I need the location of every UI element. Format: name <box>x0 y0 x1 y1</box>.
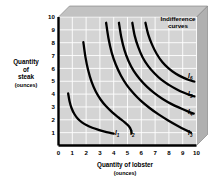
y-tick-label: 9 <box>52 26 56 33</box>
y-axis-title-line-1: Quantity <box>13 58 39 65</box>
y-axis-title-line-3: steak <box>18 73 34 80</box>
y-tick-label: 2 <box>52 116 56 123</box>
x-axis-title: Quantity of lobster (ounces) <box>55 161 195 177</box>
x-tick-label: 6 <box>140 149 144 156</box>
y-axis-title-line-2: of <box>23 66 29 73</box>
y-tick-label: 8 <box>52 39 56 46</box>
curve-label-subscript: 3 <box>190 133 193 138</box>
indifference-curves-annotation: Indifference curves <box>146 15 210 30</box>
x-tick-label: 2 <box>84 149 88 156</box>
x-tick-label: 10 <box>193 149 200 156</box>
curve-label-subscript: 4 <box>189 112 193 117</box>
y-tick-label: 1 <box>52 129 56 136</box>
x-tick-label: 1 <box>71 149 75 156</box>
y-tick-label: 10 <box>48 13 55 20</box>
y-tick-label: 5 <box>52 77 56 84</box>
curve-label-subscript: 5 <box>190 94 193 99</box>
indifference-curve-chart: Quantity of steak (ounces) Quantity of l… <box>0 0 223 180</box>
x-tick-label: 4 <box>112 149 116 156</box>
y-axis-unit: (ounces) <box>15 82 37 88</box>
curve-label-subscript: 2 <box>131 133 135 138</box>
annotation-line-2: curves <box>168 22 188 29</box>
y-tick-label: 6 <box>52 65 56 72</box>
x-axis-title-text: Quantity of lobster <box>97 161 153 168</box>
annotation-line-1: Indifference <box>160 15 195 22</box>
y-axis-title: Quantity of steak (ounces) <box>2 58 50 89</box>
x-tick-label: 5 <box>126 149 130 156</box>
x-tick-label: 0 <box>57 149 61 156</box>
y-tick-label: 3 <box>52 103 56 110</box>
x-axis-unit: (ounces) <box>114 170 136 176</box>
x-tick-label: 3 <box>98 149 102 156</box>
curve-label-subscript: 1 <box>117 133 120 138</box>
y-tick-label: 4 <box>52 90 56 97</box>
curve-label-subscript: 6 <box>190 76 193 81</box>
y-tick-label: 7 <box>52 52 56 59</box>
x-tick-label: 8 <box>167 149 171 156</box>
x-tick-label: 9 <box>181 149 185 156</box>
x-tick-label: 7 <box>153 149 157 156</box>
